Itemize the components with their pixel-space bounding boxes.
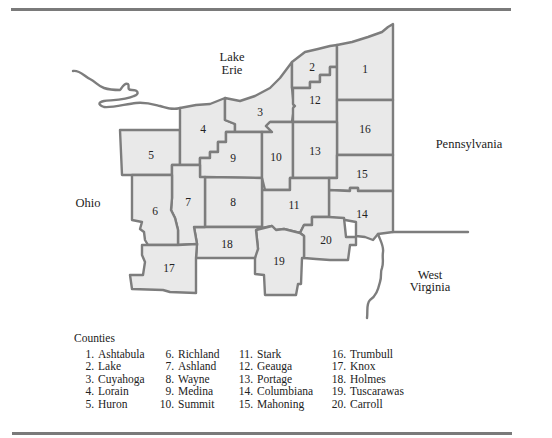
- legend-item: 19.Tuscarawas: [326, 385, 426, 398]
- county-1-ashtabula[interactable]: [337, 24, 393, 100]
- county-number-8: 8: [230, 196, 236, 208]
- legend-item: 16.Trumbull: [326, 348, 426, 361]
- county-number-12: 12: [309, 94, 321, 106]
- label-ohio: Ohio: [76, 196, 101, 210]
- legend-item: 1.Ashtabula: [74, 348, 154, 361]
- county-number-19: 19: [273, 255, 285, 267]
- county-number-16: 16: [359, 123, 371, 135]
- legend-item: 12.Geauga: [233, 360, 326, 373]
- label-lake: LakeErie: [220, 50, 245, 77]
- county-number-3: 3: [257, 106, 263, 118]
- county-number-20: 20: [320, 234, 332, 246]
- county-number-11: 11: [288, 199, 299, 211]
- legend-item: 5.Huron: [74, 398, 154, 411]
- legend-item: 3.Cuyahoga: [74, 373, 154, 386]
- legend-item: 11.Stark: [233, 348, 326, 361]
- county-number-9: 9: [230, 152, 236, 164]
- legend-item: 9.Medina: [154, 385, 233, 398]
- legend-item: 2.Lake: [74, 360, 154, 373]
- legend-item: 4.Lorain: [74, 385, 154, 398]
- legend-item: 10.Summit: [154, 398, 233, 411]
- bottom-rule: [12, 432, 512, 435]
- county-number-17: 17: [163, 262, 175, 274]
- legend-title: Counties: [74, 332, 426, 345]
- county-legend: Counties 1.Ashtabula 2.Lake 3.Cuyahoga 4…: [74, 332, 426, 411]
- legend-item: 7.Ashland: [154, 360, 233, 373]
- legend-item: 8.Wayne: [154, 373, 233, 386]
- legend-column-3: 11.Stark 12.Geauga 13.Portage 14.Columbi…: [233, 348, 326, 411]
- county-number-13: 13: [309, 145, 321, 157]
- legend-item: 14.Columbiana: [233, 385, 326, 398]
- ohio-river: [367, 234, 383, 318]
- legend-item: 20.Carroll: [326, 398, 426, 411]
- legend-item: 17.Knox: [326, 360, 426, 373]
- county-number-4: 4: [200, 123, 206, 135]
- county-number-5: 5: [148, 149, 154, 161]
- county-number-2: 2: [309, 61, 315, 73]
- legend-item: 6.Richland: [154, 348, 233, 361]
- legend-item: 13.Portage: [233, 373, 326, 386]
- county-number-6: 6: [152, 205, 158, 217]
- legend-item: 15.Mahoning: [233, 398, 326, 411]
- label-pennsylvania: Pennsylvania: [436, 137, 503, 151]
- county-number-10: 10: [270, 151, 282, 163]
- lake-erie-shoreline: [73, 71, 180, 109]
- county-number-15: 15: [356, 168, 368, 180]
- county-number-14: 14: [356, 208, 368, 220]
- county-number-1: 1: [362, 63, 368, 75]
- legend-column-2: 6.Richland 7.Ashland 8.Wayne 9.Medina 10…: [154, 348, 233, 411]
- legend-column-4: 16.Trumbull 17.Knox 18.Holmes 19.Tuscara…: [326, 348, 426, 411]
- label-west-virginia: WestVirginia: [410, 268, 451, 294]
- county-number-18: 18: [221, 238, 233, 250]
- legend-column-1: 1.Ashtabula 2.Lake 3.Cuyahoga 4.Lorain 5…: [74, 348, 154, 411]
- county-number-7: 7: [185, 196, 191, 208]
- counties: [120, 24, 393, 295]
- legend-item: 18.Holmes: [326, 373, 426, 386]
